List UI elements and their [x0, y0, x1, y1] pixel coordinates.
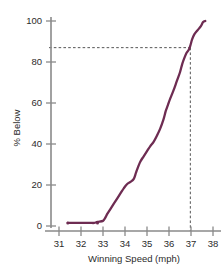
x-axis-tick-label: 37	[186, 238, 197, 249]
data-point-marker	[96, 221, 99, 224]
y-axis-title: % Below	[11, 109, 22, 146]
x-axis: 3132333435363738	[45, 227, 221, 250]
ogive-chart: 020406080100 3132333435363738 Winning Sp…	[0, 0, 223, 273]
y-axis-tick-label: 60	[31, 97, 42, 108]
data-series-group	[68, 21, 206, 223]
cumulative-percent-curve	[68, 21, 206, 223]
x-axis-title: Winning Speed (mph)	[88, 253, 180, 264]
x-axis-tick-label: 38	[208, 238, 219, 249]
y-axis: 020406080100	[26, 15, 56, 231]
chart-canvas: 020406080100 3132333435363738 Winning Sp…	[0, 0, 223, 273]
y-axis-tick-label: 80	[31, 56, 42, 67]
x-axis-tick-label: 31	[54, 238, 65, 249]
y-axis-tick-label: 100	[26, 15, 42, 26]
x-axis-tick-label: 34	[120, 238, 131, 249]
data-point-marker	[66, 221, 69, 224]
y-axis-tick-label: 0	[37, 220, 42, 231]
y-axis-tick-label: 20	[31, 179, 42, 190]
reference-lines-group	[49, 48, 191, 231]
x-axis-tick-label: 35	[142, 238, 153, 249]
x-axis-tick-label: 33	[98, 238, 109, 249]
x-axis-tick-label: 36	[164, 238, 175, 249]
x-axis-tick-label: 32	[76, 238, 87, 249]
y-axis-tick-label: 40	[31, 138, 42, 149]
